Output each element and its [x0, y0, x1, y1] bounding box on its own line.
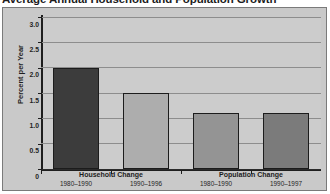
y-tick-mark [38, 144, 42, 145]
chart-frame: Percent per Year 3.02.52.01.51.00.50 198… [2, 7, 327, 191]
y-tick-label: 0 [13, 173, 39, 180]
y-tick-mark [38, 42, 42, 43]
y-tick-label: 3.0 [13, 21, 39, 28]
y-tick-mark [38, 93, 42, 94]
y-tick-label: 1.5 [13, 97, 39, 104]
category-labels: 1980–19901990–19961980–19901990–1997Hous… [41, 171, 321, 193]
y-tick-mark [38, 17, 42, 18]
bar [193, 113, 239, 169]
bar [123, 93, 169, 169]
group-label: Population Change [191, 171, 311, 178]
y-tick-label: 1.0 [13, 122, 39, 129]
y-tick-label: 0.5 [13, 147, 39, 154]
y-tick-mark [38, 118, 42, 119]
y-tick-label: 2.0 [13, 71, 39, 78]
gridline [41, 17, 321, 18]
figure: Average Annual Household and Population … [0, 0, 330, 194]
gridline [41, 42, 321, 43]
period-label: 1990–1997 [246, 180, 326, 187]
y-tick-mark [38, 68, 42, 69]
period-label: 1990–1996 [106, 180, 186, 187]
bar [263, 113, 309, 169]
chart-title: Average Annual Household and Population … [2, 0, 328, 7]
y-axis-tick-labels: 3.02.52.01.51.00.50 [13, 15, 39, 175]
period-label: 1980–1990 [176, 180, 256, 187]
bar [53, 68, 99, 169]
y-tick-label: 2.5 [13, 46, 39, 53]
period-label: 1980–1990 [36, 180, 116, 187]
plot-area [41, 17, 321, 169]
group-label: Household Change [51, 171, 171, 178]
